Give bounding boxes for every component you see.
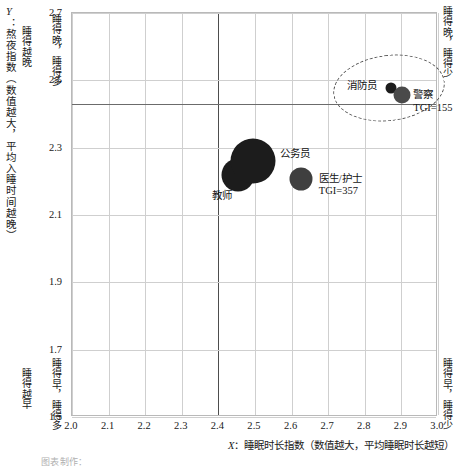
y-gridline <box>72 282 436 283</box>
x-axis-title-text: ：睡眠时长指数（数值越大，平均睡眠时长越短） <box>234 440 454 451</box>
x-axis-tick-label: 2.6 <box>284 420 297 431</box>
y-axis-tick-label: 2.7 <box>0 7 62 18</box>
x-axis-tick-label: 2.8 <box>357 420 370 431</box>
data-point-tgi: TGI=155 <box>413 102 452 115</box>
data-point-label: 教师 <box>212 190 232 203</box>
data-point-bubble[interactable] <box>289 167 312 190</box>
data-point-label: 医生/护士TGI=357 <box>319 173 362 198</box>
data-point-name: 警察 <box>413 89 433 100</box>
y-axis-tick-label: 2.1 <box>0 209 62 220</box>
data-point-bubble[interactable] <box>394 87 411 104</box>
x-axis-title: X：睡眠时长指数（数值越大，平均睡眠时长越短） <box>228 437 460 452</box>
data-point-bubble[interactable] <box>231 138 276 183</box>
data-point-label: 消防员 <box>347 80 377 93</box>
x-gridline <box>218 13 219 415</box>
data-point-name: 公务员 <box>280 148 310 159</box>
x-gridline <box>72 13 73 415</box>
x-gridline <box>255 13 256 415</box>
x-axis-tick-label: 2.3 <box>174 420 187 431</box>
x-axis-tick-label: 2.4 <box>211 420 224 431</box>
x-axis-tick-label: 2.1 <box>101 420 114 431</box>
y-gridline <box>72 350 436 351</box>
x-axis-tick-label: 2.0 <box>64 420 77 431</box>
data-point-label: 公务员 <box>280 148 310 161</box>
data-point-name: 教师 <box>212 190 232 201</box>
x-axis-tick-label: 2.7 <box>320 420 333 431</box>
x-axis-tick-label: 2.9 <box>394 420 407 431</box>
data-point-tgi: TGI=357 <box>319 185 362 198</box>
x-gridline <box>145 13 146 415</box>
y-axis-tick-label: 2.5 <box>0 74 62 85</box>
x-axis-tick-label: 3.0 <box>430 420 443 431</box>
y-gridline <box>72 417 436 418</box>
x-axis-tick-label: 2.2 <box>137 420 150 431</box>
data-point-name: 医生/护士 <box>319 173 362 184</box>
y-axis-tick-label: 1.5 <box>0 411 62 422</box>
chart-credit: 图表制作： <box>41 455 88 468</box>
x-axis-tick-label: 2.5 <box>247 420 260 431</box>
y-axis-tick-label: 2.3 <box>0 141 62 152</box>
x-gridline <box>328 13 329 415</box>
y-gridline <box>72 215 436 216</box>
y-gridline <box>72 13 436 14</box>
data-point-label: 警察TGI=155 <box>413 89 452 114</box>
y-axis-tick-label: 1.9 <box>0 276 62 287</box>
x-gridline <box>109 13 110 415</box>
y-axis-annotation-high: 睡得越晚 <box>20 26 31 68</box>
x-gridline <box>292 13 293 415</box>
x-gridline <box>182 13 183 415</box>
data-point-name: 消防员 <box>347 80 377 91</box>
y-axis-title: Y：熬夜指数（数值越大，平均入睡时间越晚） <box>0 6 15 242</box>
y-axis-tick-label: 1.7 <box>0 343 62 354</box>
y-axis-annotation-low: 睡得越早 <box>20 368 31 410</box>
quadrant-label-top-right: 睡得晚，睡得少 <box>441 6 452 79</box>
chart-canvas: Y：熬夜指数（数值越大，平均入睡时间越晚） 睡得越晚 睡得越早 睡得晚，睡得多 … <box>0 0 462 468</box>
